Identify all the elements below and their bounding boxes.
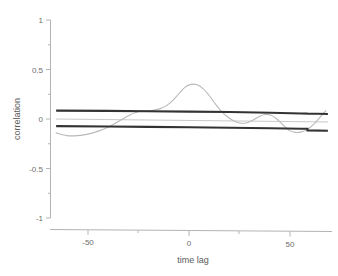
y-tick-label-neg0-5: -0.5 [29,165,43,174]
x-tick-label-0: 0 [187,239,192,248]
y-tick-label-0: 0 [39,115,44,124]
y-tick-label-1: 1 [39,16,44,25]
x-axis-title: time lag [177,255,209,265]
lower-confidence-band [56,126,328,131]
correlation-plot: 1 0.5 0 -0.5 -1 correlation -50 0 50 tim… [0,0,338,276]
x-axis-group: -50 0 50 time lag [50,230,332,266]
chart-figure: 1 0.5 0 -0.5 -1 correlation -50 0 50 tim… [0,0,338,276]
y-tick-label-neg1: -1 [36,214,44,223]
y-axis-ticks [46,20,51,218]
x-tick-label-50: 50 [286,240,295,249]
y-axis-group: 1 0.5 0 -0.5 -1 correlation [12,16,51,223]
y-axis-title: correlation [12,98,22,140]
x-tick-label-neg50: -50 [82,238,94,247]
y-tick-label-0-5: 0.5 [32,66,44,75]
plot-series-group [56,84,328,136]
x-axis-line [50,230,332,232]
zero-reference-line [56,119,328,122]
upper-confidence-band [56,111,328,114]
